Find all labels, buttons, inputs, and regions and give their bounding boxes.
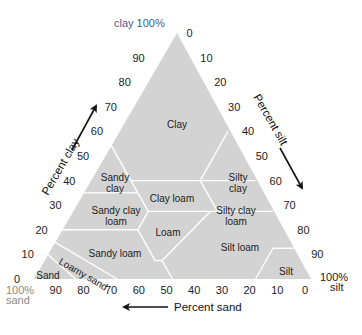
tick-clay-30: 30 (49, 199, 61, 211)
tick-silt-20: 20 (214, 76, 226, 88)
tick-sand-40: 40 (188, 284, 200, 296)
axis-title-silt: Percent silt (251, 92, 290, 148)
tick-clay-20: 20 (35, 224, 47, 236)
tick-silt-40: 40 (242, 125, 254, 137)
region-label-silty-clay: Siltyclay (229, 172, 248, 194)
tick-silt-70: 70 (283, 199, 295, 211)
tick-silt-50: 50 (256, 150, 268, 162)
tick-silt-10: 10 (200, 52, 212, 64)
tick-sand-90: 90 (50, 284, 62, 296)
tick-clay-10: 10 (22, 248, 34, 260)
tick-clay-70: 70 (105, 101, 117, 113)
tick-sand-0: 0 (302, 284, 308, 296)
region-label-clay-loam: Clay loam (150, 193, 194, 204)
region-label-clay: Clay (167, 119, 187, 130)
tick-silt-60: 60 (270, 175, 282, 187)
tick-silt-30: 30 (228, 101, 240, 113)
region-label-loam: Loam (155, 227, 180, 238)
region-label-silt: Silt (279, 266, 293, 277)
tick-clay-80: 80 (119, 76, 131, 88)
tick-sand-60: 60 (133, 284, 145, 296)
tick-sand-10: 10 (271, 284, 283, 296)
region-label-sandy-loam: Sandy loam (89, 248, 142, 259)
tick-sand-20: 20 (243, 284, 255, 296)
tick-sand-70: 70 (105, 284, 117, 296)
corner-label-sand-2: sand (6, 294, 30, 306)
corner-label-silt-2: silt (330, 281, 343, 293)
axis-title-sand: Percent sand (174, 301, 242, 313)
tick-sand-80: 80 (77, 284, 89, 296)
corner-label-clay: clay 100% (114, 17, 165, 29)
region-label-silt-loam: Silt loam (221, 242, 259, 253)
tick-sand-50: 50 (160, 284, 172, 296)
tick-silt-0: 0 (187, 27, 193, 39)
soil-texture-triangle: ClaySandyclaySiltyclaySandy clayloamClay… (0, 0, 362, 335)
tick-silt-90: 90 (311, 248, 323, 260)
arrow-silt-icon (280, 148, 302, 188)
tick-clay-50: 50 (77, 150, 89, 162)
tick-clay-40: 40 (63, 175, 75, 187)
tick-silt-80: 80 (297, 224, 309, 236)
tick-sand-30: 30 (216, 284, 228, 296)
region-label-sand: Sand (36, 270, 59, 281)
tick-clay-90: 90 (132, 52, 144, 64)
triangle-background (34, 33, 311, 279)
tick-clay-60: 60 (91, 125, 103, 137)
